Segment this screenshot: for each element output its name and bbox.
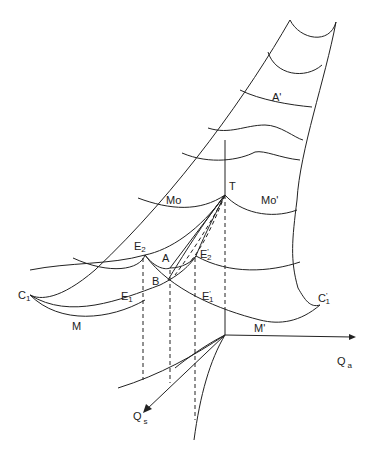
mo-curve [138, 195, 225, 207]
label-e2: E2 [134, 240, 146, 254]
right-boundary-curve [293, 22, 336, 306]
label-m-prime: M' [254, 322, 265, 334]
top-crest-curve [290, 20, 336, 37]
qa-arrowhead-icon [349, 334, 356, 340]
lower-projection-curve-left [118, 335, 225, 388]
level-curve-5 [182, 152, 300, 160]
label-c1-prime: C'1 [318, 291, 330, 306]
label-qs: Qs [133, 410, 148, 426]
label-t: T [229, 180, 236, 192]
label-mo: Mo [166, 194, 181, 206]
label-b: B [152, 275, 159, 287]
label-a-prime: A' [272, 91, 281, 103]
e2-prime-right-curve [196, 256, 300, 270]
label-m: M [72, 320, 81, 332]
qa-axis [225, 335, 352, 337]
label-mo-prime: Mo' [261, 194, 278, 206]
level-curve-4 [208, 125, 303, 140]
label-e2-prime: E'2 [200, 247, 212, 262]
label-qa: Qa [337, 355, 353, 370]
label-e1: E1 [121, 290, 133, 304]
label-c1: C1 [18, 289, 31, 303]
left-boundary-curve [30, 20, 290, 297]
label-a: A [162, 252, 170, 264]
label-e1-prime: E'1 [202, 289, 214, 304]
level-curve-2 [268, 52, 322, 74]
surface-diagram: A' Mo Mo' T E2 E'2 A B E1 E'1 C1 C'1 M M… [0, 0, 375, 451]
